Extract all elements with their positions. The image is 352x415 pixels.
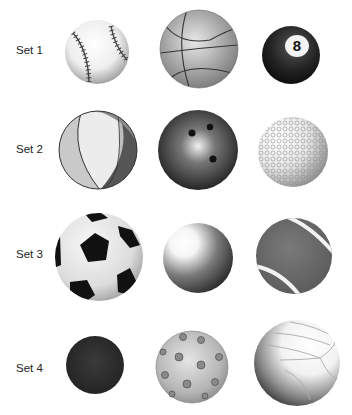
plain-sphere-icon: [163, 223, 233, 293]
balls-canvas: 8: [0, 0, 352, 415]
baseball-icon: [65, 20, 129, 84]
volleyball-icon: [254, 320, 340, 406]
soccer-ball-icon: [52, 212, 143, 302]
tennis-ball-icon: [254, 216, 333, 296]
eight-ball-number: 8: [293, 37, 301, 54]
wiffle-ball-icon: [156, 331, 228, 403]
rubber-ball-icon: [66, 336, 124, 394]
beach-ball-icon: [59, 110, 140, 190]
basketball-icon: [160, 10, 238, 90]
eight-ball-icon: 8: [262, 26, 320, 84]
golf-ball-icon: [258, 117, 328, 187]
bowling-ball-icon: [158, 110, 238, 190]
